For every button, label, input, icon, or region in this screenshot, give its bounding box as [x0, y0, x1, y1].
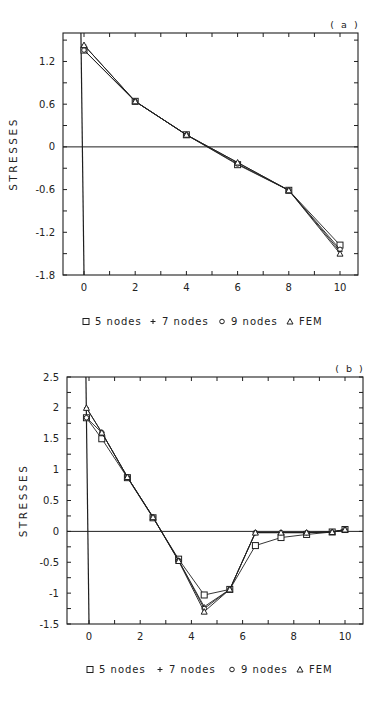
legend-item: 5 nodes — [87, 664, 146, 675]
series-fem — [83, 405, 348, 614]
figure-canvas: 02468101.20.60-0.6-1.2-1.8STRESSES( a )5… — [0, 0, 383, 703]
y-tick-label: 0.6 — [39, 99, 55, 110]
series-line — [84, 50, 340, 249]
y-tick-label: 0.5 — [43, 495, 59, 506]
y-tick-label: 2 — [53, 402, 59, 413]
y-tick-label: -1.5 — [39, 619, 59, 630]
legend-item: 9 nodes — [230, 664, 288, 675]
square-marker — [252, 543, 258, 549]
legend-label: 9 nodes — [231, 316, 278, 327]
y-tick-label: -0.6 — [35, 184, 55, 195]
triangle-marker — [287, 319, 293, 325]
plot-frame — [63, 33, 358, 275]
series-9-nodes — [82, 48, 343, 252]
plus-marker — [158, 667, 163, 672]
series-fem — [81, 42, 343, 256]
x-tick-label: 4 — [188, 631, 194, 642]
x-tick-label: 8 — [286, 282, 292, 293]
y-tick-label: 2.5 — [43, 372, 59, 383]
chart-panel-b: 02468102.521.510.50-0.5-1-1.5STRESSES( b… — [17, 363, 365, 675]
circle-marker — [82, 48, 87, 53]
y-axis-title: STRESSES — [17, 464, 29, 538]
square-marker — [87, 667, 93, 673]
circle-marker — [220, 319, 225, 324]
square-marker — [201, 592, 207, 598]
legend-item: FEM — [287, 316, 323, 327]
panel-label: ( a ) — [330, 19, 359, 30]
series-5-nodes — [81, 47, 343, 248]
legend: 5 nodes7 nodes9 nodesFEM — [87, 664, 333, 675]
circle-marker — [84, 415, 89, 420]
legend-label: 7 nodes — [169, 664, 216, 675]
legend-label: FEM — [299, 316, 323, 327]
series-line — [86, 408, 345, 612]
plot-frame — [67, 377, 363, 624]
x-tick-label: 8 — [291, 631, 297, 642]
y-axis-title: STRESSES — [7, 117, 19, 191]
origin-line — [81, 33, 84, 275]
panel-label: ( b ) — [335, 363, 364, 374]
legend: 5 nodes7 nodes9 nodesFEM — [83, 316, 323, 327]
triangle-marker — [297, 667, 303, 673]
x-tick-label: 10 — [334, 282, 347, 293]
series-9-nodes — [84, 415, 347, 610]
y-tick-label: -0.5 — [39, 557, 59, 568]
y-tick-label: -1.8 — [35, 270, 55, 281]
legend-item: 7 nodes — [158, 664, 216, 675]
series-line — [86, 408, 345, 607]
legend-item: 9 nodes — [220, 316, 278, 327]
origin-line — [86, 377, 89, 624]
legend-label: FEM — [309, 664, 333, 675]
series-line — [84, 50, 340, 245]
x-tick-label: 2 — [137, 631, 143, 642]
legend-label: 5 nodes — [99, 664, 146, 675]
x-tick-label: 10 — [339, 631, 352, 642]
x-tick-label: 0 — [86, 631, 92, 642]
square-marker — [83, 319, 89, 325]
chart-panel-a: 02468101.20.60-0.6-1.2-1.8STRESSES( a )5… — [7, 19, 360, 327]
y-tick-label: 1.2 — [39, 56, 55, 67]
circle-marker — [230, 667, 235, 672]
legend-item: 7 nodes — [151, 316, 209, 327]
series-line — [86, 418, 345, 609]
x-tick-label: 4 — [183, 282, 189, 293]
legend-item: 5 nodes — [83, 316, 142, 327]
legend-label: 7 nodes — [162, 316, 209, 327]
legend-label: 5 nodes — [95, 316, 142, 327]
series-5-nodes — [83, 415, 348, 598]
x-tick-label: 2 — [132, 282, 138, 293]
x-tick-label: 0 — [81, 282, 87, 293]
series-line — [86, 418, 345, 595]
y-tick-label: 0 — [49, 141, 55, 152]
x-tick-label: 6 — [234, 282, 240, 293]
y-tick-label: 0 — [53, 526, 59, 537]
plus-marker — [151, 319, 156, 324]
y-tick-label: -1 — [49, 588, 59, 599]
y-tick-label: 1 — [53, 464, 59, 475]
x-tick-label: 6 — [239, 631, 245, 642]
y-tick-label: -1.2 — [35, 227, 55, 238]
legend-item: FEM — [297, 664, 333, 675]
legend-label: 9 nodes — [241, 664, 288, 675]
series-7-nodes — [84, 405, 348, 609]
y-tick-label: 1.5 — [43, 433, 59, 444]
